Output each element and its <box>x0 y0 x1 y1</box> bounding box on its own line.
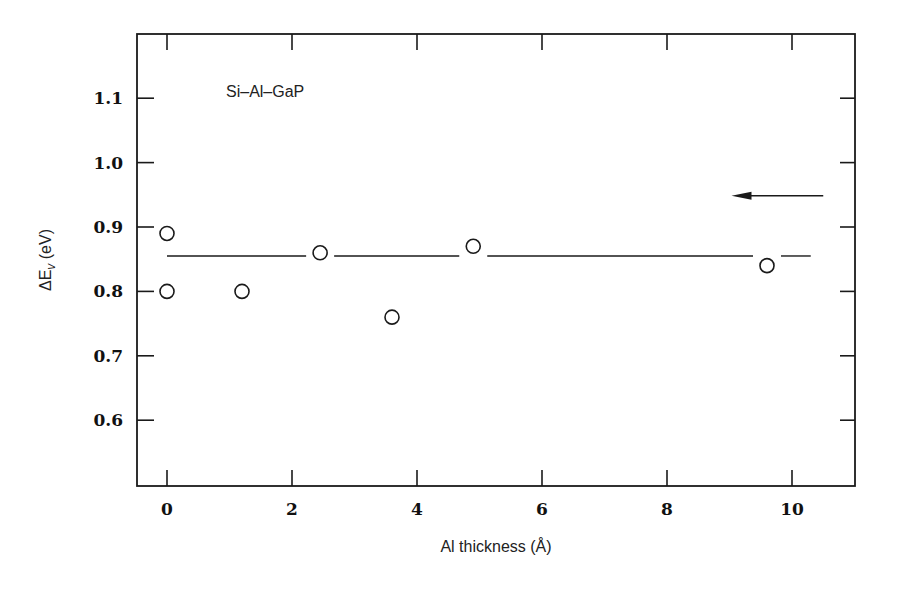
data-point <box>235 284 249 298</box>
data-point <box>160 284 174 298</box>
y-tick-label: 0.7 <box>93 346 123 366</box>
x-tick-label: 4 <box>411 499 423 519</box>
x-tick-label: 10 <box>780 499 804 519</box>
x-tick-label: 0 <box>161 499 173 519</box>
x-axis-title: Al thickness (Å) <box>440 537 551 555</box>
y-axis-ticks: 0.60.70.80.91.01.1 <box>93 88 855 430</box>
y-tick-label: 0.8 <box>93 281 123 301</box>
left-arrow-icon <box>732 192 824 200</box>
x-axis-ticks: 0246810 <box>161 34 804 519</box>
y-tick-label: 1.1 <box>93 88 123 108</box>
y-tick-label: 1.0 <box>93 153 123 173</box>
data-point <box>466 239 480 253</box>
data-point <box>760 259 774 273</box>
chart: 0246810 0.60.70.80.91.01.1 Si–Al–GaP Al … <box>0 0 914 589</box>
x-tick-label: 6 <box>536 499 548 519</box>
plot-border <box>137 34 855 486</box>
annotation-label: Si–Al–GaP <box>226 83 304 100</box>
y-axis-title-unit: (eV) <box>37 229 54 264</box>
x-tick-label: 2 <box>286 499 298 519</box>
y-axis-title-main: ΔE <box>37 270 54 291</box>
arrowhead-icon <box>732 192 752 200</box>
plot-frame <box>137 34 855 486</box>
data-point <box>385 310 399 324</box>
data-point <box>313 246 327 260</box>
y-tick-label: 0.6 <box>93 410 123 430</box>
y-tick-label: 0.9 <box>93 217 123 237</box>
data-point <box>160 226 174 240</box>
y-axis-title: ΔEv (eV) <box>37 229 58 291</box>
data-points <box>160 226 774 324</box>
x-tick-label: 8 <box>661 499 673 519</box>
